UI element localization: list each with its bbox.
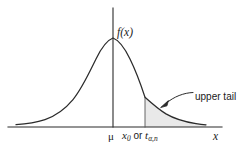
cutoff-alt-subscript: α,n [148, 134, 158, 143]
mean-axis-label: μ [108, 131, 114, 142]
upper-tail-arrowhead-icon [161, 101, 169, 108]
upper-tail-annotation-label: upper tail [195, 92, 236, 102]
upper-tail-leader-line [166, 93, 193, 104]
cutoff-subscript: 0 [127, 134, 131, 143]
x-axis-label: x [213, 131, 218, 143]
statistics-distribution-figure: f(x) μ x0 or tα,n x upper tail [0, 0, 248, 149]
density-function-label: f(x) [117, 27, 133, 39]
cutoff-axis-label: x0 or tα,n [122, 130, 158, 141]
cutoff-conjunction: or [131, 130, 145, 141]
density-curve [16, 38, 206, 125]
bell-curve-plot [0, 0, 248, 149]
